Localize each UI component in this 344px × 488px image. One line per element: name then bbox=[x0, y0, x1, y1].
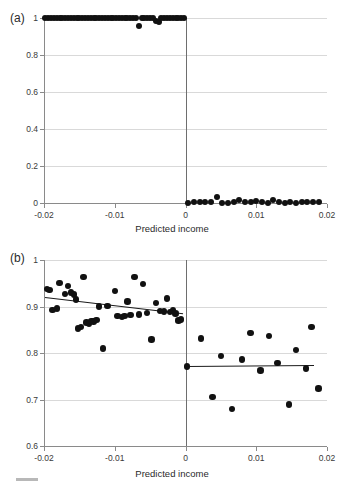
y-axis-line bbox=[44, 18, 45, 203]
y-tick bbox=[40, 307, 44, 308]
data-point bbox=[208, 199, 214, 205]
data-point bbox=[153, 300, 159, 306]
panel-a-xaxis-title: Predicted income bbox=[0, 223, 344, 234]
x-tick bbox=[44, 447, 45, 451]
data-point bbox=[293, 200, 299, 206]
x-tick bbox=[115, 447, 116, 451]
y-tick-label: 0.2 bbox=[8, 161, 38, 171]
y-tick-label: 0.7 bbox=[8, 395, 38, 405]
y-tick-label: 0.6 bbox=[8, 441, 38, 451]
y-tick-label: 1 bbox=[8, 13, 38, 23]
data-point bbox=[209, 394, 215, 400]
data-point bbox=[124, 298, 130, 304]
data-point bbox=[131, 274, 137, 280]
x-tick bbox=[327, 204, 328, 208]
data-point bbox=[218, 353, 224, 359]
x-tick-label: -0.02 bbox=[21, 453, 67, 463]
data-point bbox=[257, 367, 263, 373]
y-tick bbox=[40, 92, 44, 93]
y-tick bbox=[40, 353, 44, 354]
y-tick-label: 0.6 bbox=[8, 87, 38, 97]
data-point bbox=[140, 281, 146, 287]
panel-b-plot-area: 0.60.70.80.91-0.02-0.0100.010.02 bbox=[44, 260, 327, 446]
data-point bbox=[266, 333, 272, 339]
data-point bbox=[136, 23, 142, 29]
data-point bbox=[112, 288, 118, 294]
data-point bbox=[93, 317, 99, 323]
data-point bbox=[46, 287, 52, 293]
y-tick bbox=[40, 166, 44, 167]
y-tick bbox=[40, 55, 44, 56]
y-tick-label: 0.4 bbox=[8, 124, 38, 134]
data-point bbox=[308, 324, 314, 330]
data-point bbox=[247, 330, 253, 336]
panel-a: (a) 00.20.40.60.81-0.02-0.0100.010.02 Pr… bbox=[0, 0, 344, 244]
data-point bbox=[80, 274, 86, 280]
data-point bbox=[56, 280, 62, 286]
y-tick-label: 0.8 bbox=[8, 50, 38, 60]
x-tick-label: 0.02 bbox=[304, 210, 344, 220]
x-tick bbox=[115, 204, 116, 208]
y-tick-label: 0.9 bbox=[8, 302, 38, 312]
data-point bbox=[144, 310, 150, 316]
x-tick-label: -0.02 bbox=[21, 210, 67, 220]
data-point bbox=[73, 296, 79, 302]
data-point bbox=[316, 199, 322, 205]
x-tick bbox=[44, 204, 45, 208]
data-point bbox=[100, 345, 106, 351]
x-tick-label: 0.01 bbox=[233, 453, 279, 463]
y-tick-label: 0 bbox=[8, 198, 38, 208]
y-tick bbox=[40, 400, 44, 401]
regression-fit-line bbox=[187, 366, 314, 368]
data-point bbox=[178, 316, 184, 322]
cutoff-line bbox=[186, 260, 187, 446]
x-tick-label: 0.02 bbox=[304, 453, 344, 463]
data-point bbox=[274, 360, 280, 366]
x-tick bbox=[327, 447, 328, 451]
cutoff-line bbox=[186, 18, 187, 203]
figure-container: (a) 00.20.40.60.81-0.02-0.0100.010.02 Pr… bbox=[0, 0, 344, 488]
data-point bbox=[239, 356, 245, 362]
x-tick-label: -0.01 bbox=[92, 453, 138, 463]
x-tick bbox=[256, 204, 257, 208]
data-point bbox=[310, 199, 316, 205]
data-point bbox=[276, 199, 282, 205]
data-point bbox=[184, 363, 190, 369]
x-tick-label: 0.01 bbox=[233, 210, 279, 220]
data-point bbox=[136, 311, 142, 317]
x-tick-label: -0.01 bbox=[92, 210, 138, 220]
data-point bbox=[164, 295, 170, 301]
data-point bbox=[127, 312, 133, 318]
data-point bbox=[229, 406, 235, 412]
data-point bbox=[104, 303, 110, 309]
x-tick bbox=[256, 447, 257, 451]
data-point bbox=[303, 365, 309, 371]
data-point bbox=[148, 336, 154, 342]
data-point bbox=[286, 401, 292, 407]
crop-mark bbox=[16, 478, 38, 481]
panel-b: (b) 0.60.70.80.91-0.02-0.0100.010.02 Pre… bbox=[0, 240, 344, 488]
panel-a-plot-area: 00.20.40.60.81-0.02-0.0100.010.02 bbox=[44, 18, 327, 203]
data-point bbox=[198, 335, 204, 341]
data-point bbox=[54, 305, 60, 311]
data-point bbox=[315, 385, 321, 391]
y-tick-label: 1 bbox=[8, 255, 38, 265]
data-point bbox=[65, 283, 71, 289]
x-tick-label: 0 bbox=[163, 210, 209, 220]
data-point bbox=[96, 303, 102, 309]
data-point bbox=[225, 200, 231, 206]
x-tick-label: 0 bbox=[163, 453, 209, 463]
panel-b-xaxis-title: Predicted income bbox=[0, 468, 344, 479]
data-point bbox=[214, 194, 220, 200]
y-tick bbox=[40, 260, 44, 261]
y-tick bbox=[40, 129, 44, 130]
data-point bbox=[172, 310, 178, 316]
x-tick bbox=[186, 447, 187, 451]
y-tick-label: 0.8 bbox=[8, 348, 38, 358]
